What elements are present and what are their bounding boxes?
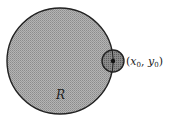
point-label: (x0, y0) <box>126 55 163 69</box>
region-label: R <box>55 88 65 102</box>
point-x0-y0 <box>111 59 115 63</box>
region-diagram: R (x0, y0) <box>0 0 174 120</box>
